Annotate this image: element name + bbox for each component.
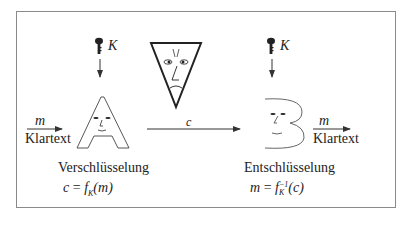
key-icon-decrypt (267, 38, 275, 54)
encryption-title: Verschlüsselung (58, 160, 149, 176)
encryption-formula: c = fK(m) (63, 180, 113, 198)
encryption-letter-a-icon (77, 97, 129, 148)
input-message-label: m (35, 113, 45, 129)
ciphertext-label: c (186, 115, 191, 130)
output-caption: Klartext (313, 131, 359, 147)
input-caption: Klartext (25, 131, 71, 147)
decryption-formula: m = f−1K(c) (250, 180, 304, 197)
output-message-label: m (319, 113, 329, 129)
eavesdropper-triangle-icon (151, 43, 201, 107)
decryption-title: Entschlüsselung (244, 160, 335, 176)
diagram-graphics (0, 0, 409, 225)
key-icon-encrypt (95, 38, 103, 54)
decryption-letter-b-icon (265, 99, 304, 149)
encrypt-key-label: K (108, 38, 117, 54)
decrypt-key-label: K (280, 38, 289, 54)
